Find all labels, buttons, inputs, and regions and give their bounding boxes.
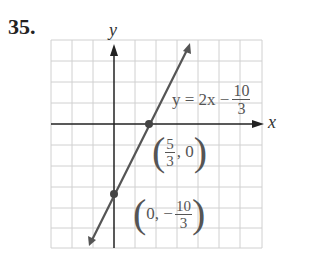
x-intercept-label: ( 5 3 , 0 ) xyxy=(152,132,207,172)
y-intercept-point xyxy=(110,190,118,198)
equation-label: y = 2x − 10 3 xyxy=(172,82,250,117)
line-arrow-down-icon xyxy=(88,236,96,246)
x-intercept-point xyxy=(145,120,153,128)
x-axis-label: x xyxy=(268,112,276,133)
line-arrow-up-icon xyxy=(183,43,191,54)
equation-fraction: 10 3 xyxy=(232,82,250,117)
y-axis-label: y xyxy=(109,20,117,41)
y-intercept-label: ( 0, − 10 3 ) xyxy=(133,194,205,234)
equation-lhs: y = 2x − xyxy=(172,90,229,110)
x-axis xyxy=(51,120,264,128)
y-axis-arrow-icon xyxy=(110,44,118,56)
y-axis xyxy=(110,44,118,248)
